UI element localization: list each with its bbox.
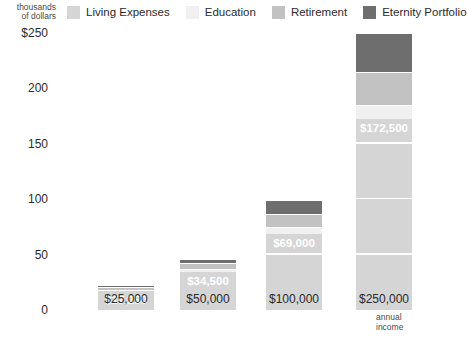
- bar-internal-gridline: [356, 198, 412, 200]
- x-axis-tick-label: $250,000: [342, 292, 426, 306]
- y-axis-tick-label: 100: [0, 192, 48, 206]
- bar-segment: [98, 290, 154, 291]
- bar-segment: [180, 263, 236, 269]
- y-axis-tick-label: 50: [0, 248, 48, 262]
- x-axis-tick-label: $100,000: [252, 292, 336, 306]
- y-axis-tick-label: $250: [0, 26, 48, 40]
- chart-plot-area: 050100150200$250 $17,250$25,000$34,500$5…: [0, 24, 438, 337]
- bar-internal-gridline: [356, 142, 412, 144]
- bar-group[interactable]: $17,250$25,000: [98, 0, 154, 310]
- x-axis-tick-label: $50,000: [166, 292, 250, 306]
- y-axis-tick-label: 0: [0, 303, 48, 317]
- bar-segment: [356, 119, 412, 310]
- bar-group[interactable]: $69,000$100,000: [266, 0, 322, 310]
- bar-segment: [266, 214, 322, 228]
- bar-segment: [98, 287, 154, 290]
- bar-segment: [180, 269, 236, 272]
- y-axis-caption-line2: of dollars: [0, 12, 56, 22]
- legend-swatch-icon-living-expenses: [67, 6, 80, 19]
- bar-segment: [356, 33, 412, 72]
- bar-segment: [266, 200, 322, 214]
- bar-internal-gridline: [266, 253, 322, 255]
- x-axis-caption: annual income: [376, 313, 403, 332]
- x-axis-caption-line2: income: [376, 323, 403, 333]
- bar-group[interactable]: $172,500$250,000: [356, 0, 412, 310]
- bar-segment: [266, 227, 322, 233]
- bar-segment: [356, 72, 412, 105]
- bar-group[interactable]: $34,500$50,000: [180, 0, 236, 310]
- y-axis-caption: thousands of dollars: [0, 3, 59, 22]
- y-axis-tick-label: 200: [0, 81, 48, 95]
- bar-internal-gridline: [356, 253, 412, 255]
- bar-segment: [356, 105, 412, 119]
- bar-stack: $172,500: [356, 33, 412, 310]
- bar-series-container: $17,250$25,000$34,500$50,000$69,000$100,…: [56, 24, 438, 337]
- bar-segment: [180, 259, 236, 263]
- bar-segment: [98, 285, 154, 287]
- y-axis-tick-label: 150: [0, 137, 48, 151]
- x-axis-tick-label: $25,000: [84, 292, 168, 306]
